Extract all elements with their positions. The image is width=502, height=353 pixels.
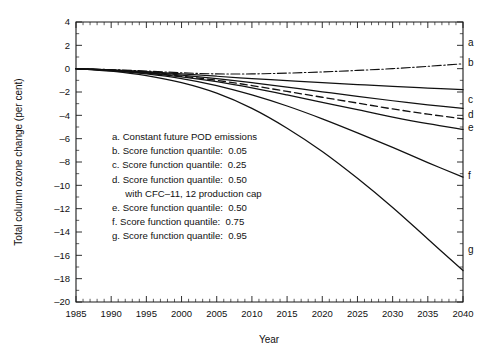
x-axis-label: Year: [259, 334, 280, 345]
legend-entry: a. Constant future POD emissions: [112, 131, 257, 142]
y-tick-label: –8: [59, 156, 70, 167]
y-tick-label: 2: [65, 40, 70, 51]
x-tick-label: 2005: [206, 308, 227, 319]
y-tick-label: –4: [59, 110, 70, 121]
x-tick-label: 1985: [65, 308, 86, 319]
y-tick-label: –6: [59, 133, 70, 144]
x-tick-labels: 1985199019952000200520102015202020252030…: [65, 308, 473, 319]
curve-label-d: d: [468, 109, 474, 120]
chart-canvas: 420–2–4–6–8–10–12–14–16–18–20 1985199019…: [0, 0, 502, 353]
curve-d: [76, 69, 463, 119]
x-tick-label: 2015: [277, 308, 298, 319]
curve-end-labels: abcdefg: [468, 37, 474, 255]
x-tick-label: 2020: [312, 308, 333, 319]
curve-label-a: a: [468, 37, 474, 48]
x-tick-label: 2035: [417, 308, 438, 319]
x-tick-label: 1995: [136, 308, 157, 319]
y-tick-label: 0: [65, 63, 70, 74]
curve-label-f: f: [468, 170, 471, 181]
y-tick-label: –20: [54, 296, 70, 307]
y-tick-label: –2: [59, 86, 70, 97]
legend-entry: b. Score function quantile: 0.05: [112, 145, 247, 156]
legend-entry: f. Score function quantile: 0.75: [112, 216, 244, 227]
x-tick-label: 2000: [171, 308, 192, 319]
x-tick-label: 2030: [382, 308, 403, 319]
curve-e: [76, 69, 463, 130]
legend-entry: e. Score function quantile: 0.50: [112, 202, 247, 213]
x-tick-label: 2025: [347, 308, 368, 319]
curve-label-g: g: [468, 244, 474, 255]
legend-entry: d. Score function quantile: 0.50: [112, 174, 247, 185]
legend-entry: c. Score function quantile: 0.25: [112, 159, 246, 170]
y-tick-label: –12: [54, 203, 70, 214]
y-tick-label: –18: [54, 273, 70, 284]
legend-entry: g. Score function quantile: 0.95: [112, 230, 247, 241]
x-tick-label: 2040: [452, 308, 473, 319]
legend-entry: with CFC–11, 12 production cap: [112, 188, 262, 199]
curve-label-b: b: [468, 57, 474, 68]
y-axis-label: Total column ozone change (per cent): [13, 78, 24, 245]
x-tick-label: 2010: [241, 308, 262, 319]
y-tick-label: –10: [54, 180, 70, 191]
y-tick-labels: 420–2–4–6–8–10–12–14–16–18–20: [54, 16, 70, 307]
x-tick-label: 1990: [101, 308, 122, 319]
curve-label-c: c: [468, 94, 473, 105]
curve-label-e: e: [468, 122, 474, 133]
ozone-change-chart: 420–2–4–6–8–10–12–14–16–18–20 1985199019…: [0, 0, 502, 353]
chart-legend: a. Constant future POD emissionsb. Score…: [112, 131, 262, 241]
y-tick-label: 4: [65, 16, 70, 27]
y-tick-label: –16: [54, 250, 70, 261]
y-tick-label: –14: [54, 226, 70, 237]
